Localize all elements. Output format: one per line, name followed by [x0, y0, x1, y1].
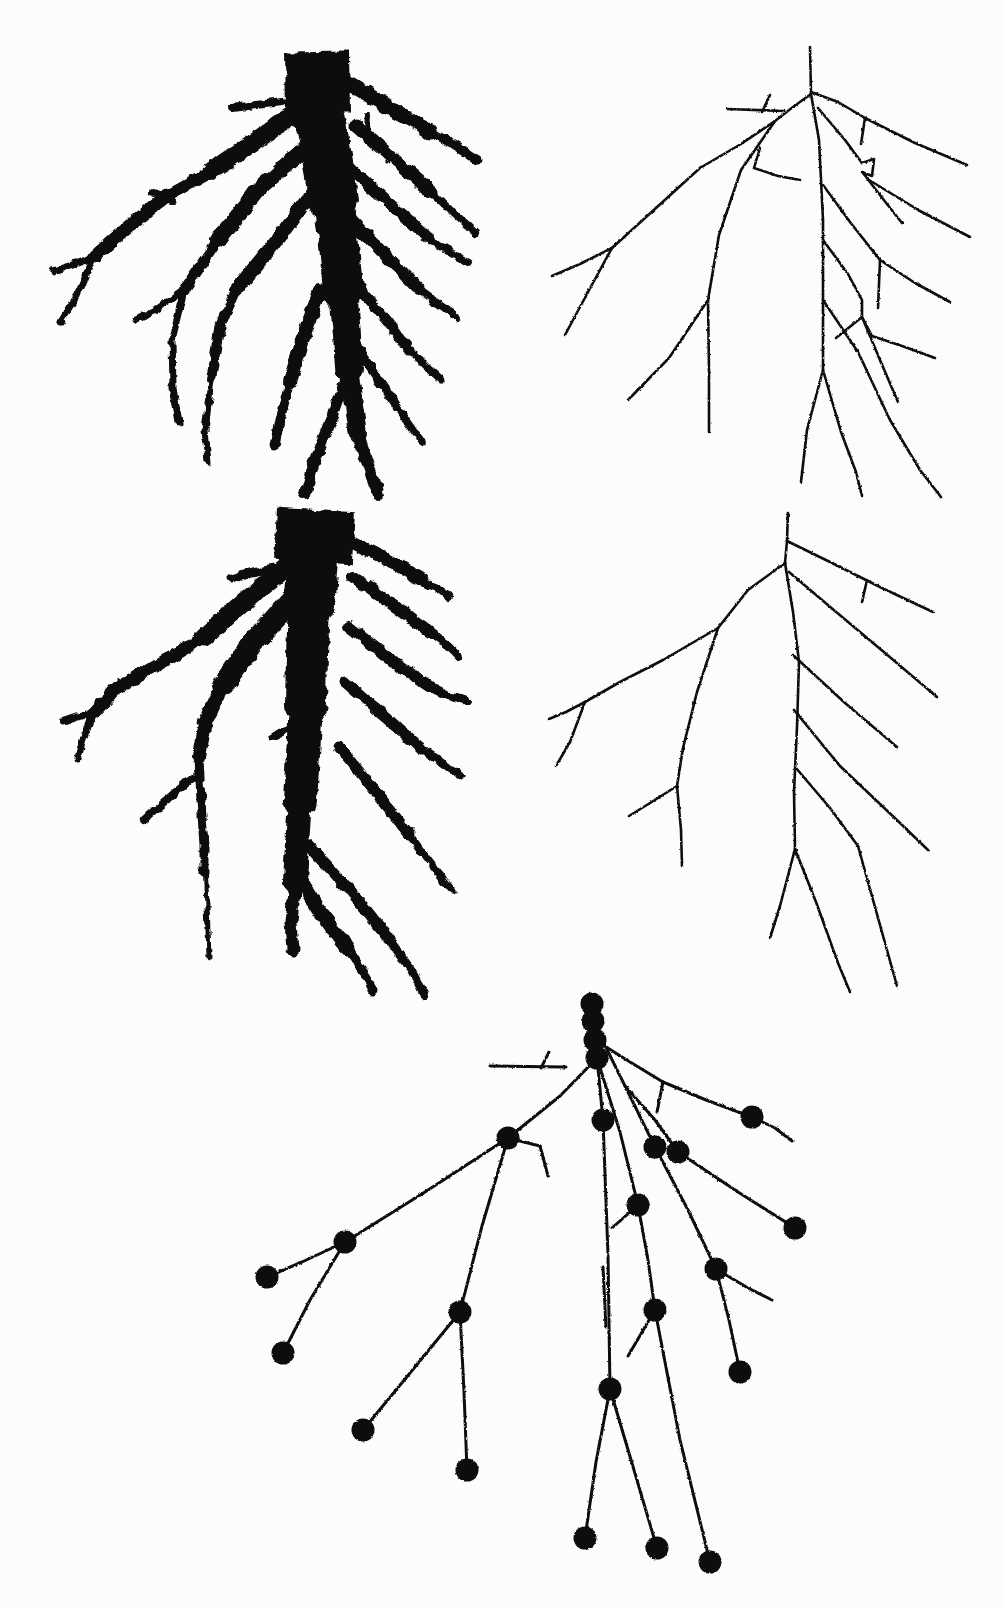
root-graph-bottom — [256, 993, 807, 1574]
graph-node — [574, 1527, 597, 1550]
root-skeleton-middle-right — [549, 513, 937, 992]
graph-node — [646, 1537, 669, 1560]
graph-node — [599, 1378, 622, 1401]
graph-node — [272, 1342, 295, 1365]
graph-node — [699, 1551, 722, 1574]
graph-node — [449, 1301, 472, 1324]
graph-node — [705, 1258, 728, 1281]
graph-node — [627, 1194, 650, 1217]
graph-node — [667, 1141, 690, 1164]
graph-node — [784, 1217, 807, 1240]
figure-canvas — [0, 0, 1003, 1608]
graph-node — [456, 1459, 479, 1482]
graph-node — [497, 1127, 520, 1150]
graph-node — [352, 1419, 375, 1442]
graph-node — [256, 1266, 279, 1289]
root-binary-silhouette-top-left — [53, 52, 478, 495]
graph-node — [729, 1361, 752, 1384]
graph-node — [644, 1299, 667, 1322]
root-skeleton-top-right — [552, 47, 970, 497]
graph-node — [644, 1136, 667, 1159]
graph-node — [334, 1231, 357, 1254]
root-binary-silhouette-middle-left — [65, 510, 468, 996]
scanned-figure-page — [0, 0, 1003, 1608]
graph-node — [586, 1047, 609, 1070]
graph-node — [592, 1109, 615, 1132]
graph-node — [741, 1106, 764, 1129]
